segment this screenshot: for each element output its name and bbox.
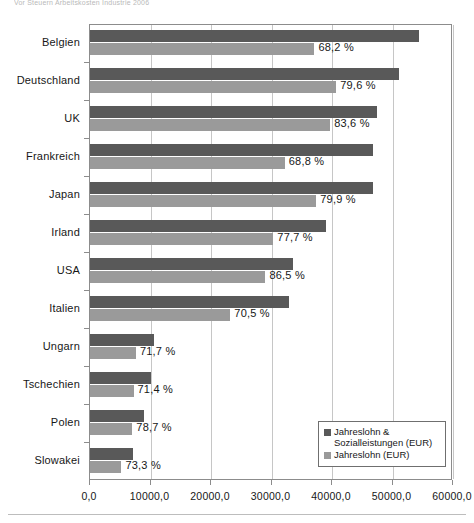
bar-row: 70,5 % [90,295,451,333]
bar-wage [90,461,121,473]
footer-rule [8,514,466,515]
gridline [453,25,454,479]
category-label-ungarn: Ungarn [0,340,80,352]
category-label-belgien: Belgien [0,36,80,48]
data-label: 79,6 % [340,79,375,91]
bar-row: 71,7 % [90,333,451,371]
top-caption: Vor Steuern Arbeitskosten Industrie 2006 [14,0,314,8]
legend-label: Jahreslohn & Sozialleistungen (EUR) [334,426,440,448]
y-axis-tick [84,214,89,215]
y-axis-tick [84,290,89,291]
category-label-tschechien: Tschechien [0,378,80,390]
y-axis-tick [84,62,89,63]
data-label: 86,5 % [269,269,304,281]
category-label-irland: Irland [0,226,80,238]
y-axis-tick [84,442,89,443]
legend-swatch-wage [324,452,331,459]
y-axis-tick [84,366,89,367]
bar-wage [90,271,265,283]
bar-wage [90,423,132,435]
y-axis-tick [84,100,89,101]
category-label-slowakei: Slowakei [0,454,80,466]
x-axis-label: 40000,0 [311,490,350,502]
y-axis-tick [84,328,89,329]
y-axis-tick [84,138,89,139]
category-label-usa: USA [0,264,80,276]
category-label-uk: UK [0,112,80,124]
legend-item: Jahreslohn (EUR) [324,449,440,460]
x-axis-label: 20000,0 [190,490,229,502]
y-axis-tick [84,176,89,177]
bar-total [90,258,293,270]
x-axis-label: 10000,0 [130,490,169,502]
legend-label: Jahreslohn (EUR) [334,449,410,460]
legend-item: Jahreslohn & Sozialleistungen (EUR) [324,426,440,448]
data-label: 70,5 % [234,307,269,319]
bar-wage [90,119,330,131]
chart-page: Vor Steuern Arbeitskosten Industrie 2006… [0,0,474,523]
bar-wage [90,81,336,93]
bar-wage [90,195,316,207]
data-label: 83,6 % [334,117,369,129]
bar-wage [90,309,230,321]
bar-row: 71,4 % [90,371,451,409]
plot-area: 68,2 %79,6 %83,6 %68,8 %79,9 %77,7 %86,5… [89,24,452,480]
bar-row: 83,6 % [90,105,451,143]
chart-legend: Jahreslohn & Sozialleistungen (EUR)Jahre… [318,421,446,467]
data-label: 79,9 % [320,193,355,205]
bar-wage [90,233,273,245]
bar-row: 68,2 % [90,29,451,67]
x-axis-label: 50000,0 [372,490,411,502]
y-axis-tick [84,252,89,253]
x-axis-tick [89,480,90,485]
x-axis-tick [392,480,393,485]
bar-row: 68,8 % [90,143,451,181]
x-axis-tick [271,480,272,485]
bar-wage [90,157,285,169]
data-label: 68,2 % [318,41,353,53]
x-axis-tick [452,480,453,485]
data-label: 73,3 % [125,459,160,471]
bar-wage [90,43,314,55]
data-label: 71,7 % [140,345,175,357]
data-label: 68,8 % [289,155,324,167]
x-axis-tick [331,480,332,485]
bar-row: 79,9 % [90,181,451,219]
x-axis-label: 0,0 [81,490,96,502]
data-label: 71,4 % [138,383,173,395]
x-axis-label: 60000,0 [432,490,471,502]
x-axis-tick [210,480,211,485]
data-label: 77,7 % [277,231,312,243]
category-label-japan: Japan [0,188,80,200]
category-label-polen: Polen [0,416,80,428]
bar-wage [90,347,136,359]
category-label-deutschland: Deutschland [0,74,80,86]
bar-total [90,30,419,42]
bar-row: 77,7 % [90,219,451,257]
x-axis-tick [150,480,151,485]
bar-row: 79,6 % [90,67,451,105]
bar-total [90,144,373,156]
bar-wage [90,385,134,397]
category-label-frankreich: Frankreich [0,150,80,162]
legend-swatch-total [324,429,331,436]
y-axis-tick [84,404,89,405]
data-label: 78,7 % [136,421,171,433]
x-axis-label: 30000,0 [251,490,290,502]
bar-row: 86,5 % [90,257,451,295]
category-label-italien: Italien [0,302,80,314]
